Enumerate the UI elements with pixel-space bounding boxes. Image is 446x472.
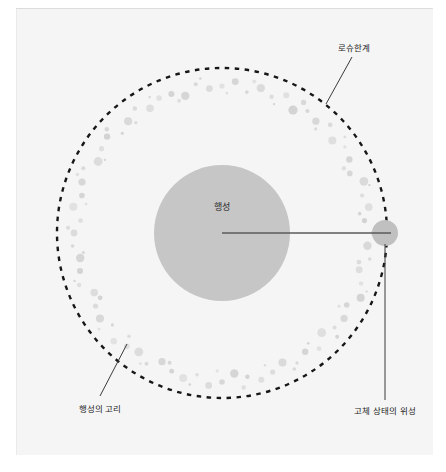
ring-particle xyxy=(177,99,181,103)
ring-particle xyxy=(230,369,238,377)
ring-particle xyxy=(269,95,273,99)
ring-particle xyxy=(199,77,201,79)
ring-particle xyxy=(257,84,265,92)
ring-particle xyxy=(76,173,80,177)
ring-particle xyxy=(283,92,289,98)
ring-particle xyxy=(343,145,346,148)
ring-particle xyxy=(66,226,70,230)
planet-ring-leader-line xyxy=(100,344,127,396)
planet-label: 행성 xyxy=(214,201,230,212)
ring-particle xyxy=(270,369,275,374)
ring-particle xyxy=(146,104,154,112)
ring-particle xyxy=(158,358,165,365)
ring-particle xyxy=(362,218,367,223)
ring-particle xyxy=(295,361,298,364)
ring-particle xyxy=(317,328,326,337)
ring-particle xyxy=(71,244,75,248)
ring-particle xyxy=(333,325,337,329)
ring-particle xyxy=(278,359,286,367)
solid-moon-label: 고체 상태의 위성 xyxy=(354,406,416,416)
ring-particle xyxy=(245,90,249,94)
roche-limit-leader-line xyxy=(326,57,352,104)
ring-particle xyxy=(305,109,309,113)
ring-particle xyxy=(69,203,77,211)
ring-particle xyxy=(357,294,365,302)
ring-particle xyxy=(365,290,367,292)
ring-particle xyxy=(145,362,149,366)
ring-particle xyxy=(335,335,339,339)
ring-particle xyxy=(301,100,306,105)
ring-particle xyxy=(337,305,340,308)
ring-particle xyxy=(156,95,162,101)
ring-particle xyxy=(82,251,85,254)
ring-particle xyxy=(219,83,224,88)
ring-particle xyxy=(98,328,101,331)
ring-particle xyxy=(273,103,275,105)
ring-particle xyxy=(368,257,372,261)
ring-particle xyxy=(225,92,228,95)
ring-particle xyxy=(78,178,85,185)
ring-particle xyxy=(356,266,363,273)
ring-particle xyxy=(357,260,362,265)
ring-particle xyxy=(96,314,104,322)
ring-particle xyxy=(242,385,246,389)
ring-particle xyxy=(104,133,110,139)
ring-particle xyxy=(288,105,297,114)
ring-particle xyxy=(94,157,103,166)
ring-particle xyxy=(148,96,151,99)
ring-particle xyxy=(252,79,256,83)
ring-particle xyxy=(195,373,199,377)
ring-particle xyxy=(365,203,373,211)
roche-limit-diagram: 로슈한계 행성 행성의 고리 고체 상태의 위성 xyxy=(0,0,446,472)
ring-particle xyxy=(139,362,141,364)
ring-particle xyxy=(312,118,319,125)
ring-particle xyxy=(105,127,109,131)
ring-particle xyxy=(134,347,143,356)
planet-ring-label: 행성의 고리 xyxy=(79,404,122,414)
ring-particle xyxy=(258,377,264,383)
ring-particle xyxy=(317,346,322,351)
ring-particle xyxy=(73,280,75,282)
ring-particle xyxy=(194,82,198,86)
ring-particle xyxy=(328,122,333,127)
ring-particle xyxy=(181,92,189,100)
ring-particle xyxy=(344,302,350,308)
ring-particle xyxy=(77,268,83,274)
ring-particle xyxy=(134,121,137,124)
ring-particle xyxy=(360,193,364,197)
ring-particle xyxy=(98,295,103,300)
ring-particle xyxy=(205,382,212,389)
ring-particle xyxy=(121,132,124,135)
ring-particle xyxy=(81,166,85,170)
ring-particle xyxy=(127,335,131,339)
ring-particle xyxy=(245,375,249,379)
ring-particle xyxy=(359,281,363,285)
ring-particle xyxy=(314,127,317,130)
ring-particle xyxy=(78,218,83,223)
ring-particle xyxy=(359,177,368,186)
ring-particle xyxy=(363,242,371,250)
ring-particle xyxy=(77,283,81,287)
ring-particle xyxy=(124,117,132,125)
figure-root: 로슈한계 행성 행성의 고리 고체 상태의 위성 xyxy=(0,0,446,472)
ring-particle xyxy=(340,315,347,322)
ring-particle xyxy=(71,230,78,237)
ring-particle xyxy=(293,367,297,371)
ring-particle xyxy=(264,364,266,366)
ring-particle xyxy=(328,136,336,144)
ring-particle xyxy=(302,349,308,355)
ring-particle xyxy=(104,159,106,161)
ring-particle xyxy=(358,212,362,216)
ring-particle xyxy=(307,342,310,345)
ring-particle xyxy=(216,369,219,372)
ring-particle xyxy=(79,193,85,199)
ring-particle xyxy=(168,91,174,97)
ring-particle xyxy=(232,78,239,85)
ring-particle xyxy=(206,85,213,92)
ring-particle xyxy=(111,323,114,326)
ring-particle xyxy=(368,184,370,186)
ring-particle xyxy=(76,254,84,262)
ring-particle xyxy=(90,289,98,297)
ring-particle xyxy=(219,379,225,385)
ring-particle xyxy=(85,203,88,206)
